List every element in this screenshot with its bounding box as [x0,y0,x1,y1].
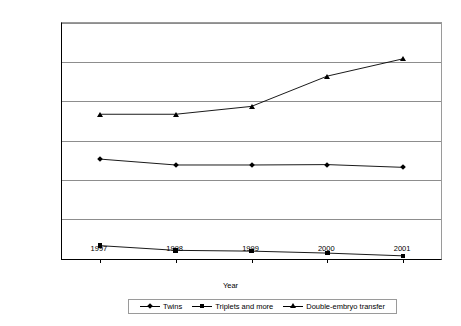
x-axis-tick-label: 1997 [74,244,124,253]
x-axis-tick-label: 2000 [301,244,351,253]
legend-swatch [192,302,212,311]
legend-label: Double-embryo transfer [306,302,385,311]
diamond-marker-icon [147,303,153,309]
x-axis-tick-mark [252,259,253,263]
triangle-marker-icon [173,112,179,117]
x-axis-tick-label: 2001 [377,244,427,253]
x-axis-tick-mark [176,259,177,263]
plot-area [61,22,442,260]
triangle-marker-icon [324,74,330,79]
legend-entry[interactable]: Twins [140,302,182,311]
x-axis-tick-label: 1998 [150,244,200,253]
triangle-marker-icon [97,112,103,117]
x-axis-tick-mark [403,259,404,263]
legend-label: Triplets and more [215,302,273,311]
legend-entry[interactable]: Double-embryo transfer [283,302,385,311]
x-axis-tick-mark [327,259,328,263]
triangle-marker-icon [400,56,406,61]
legend-swatch [140,302,160,311]
triangle-marker-icon [249,104,255,109]
x-axis-tick-mark [100,259,101,263]
square-marker-icon [401,254,406,259]
square-marker-icon [200,304,205,309]
chart-legend: TwinsTriplets and moreDouble-embryo tran… [128,299,397,314]
legend-entry[interactable]: Triplets and more [192,302,273,311]
chart-container: Percentage Year TwinsTriplets and moreDo… [0,0,461,326]
series-lines [62,23,441,259]
x-axis-tick-label: 1999 [226,244,276,253]
legend-label: Twins [163,302,182,311]
legend-swatch [283,302,303,311]
series-layer [62,23,441,259]
x-axis-title: Year [0,281,461,290]
triangle-marker-icon [290,303,296,308]
